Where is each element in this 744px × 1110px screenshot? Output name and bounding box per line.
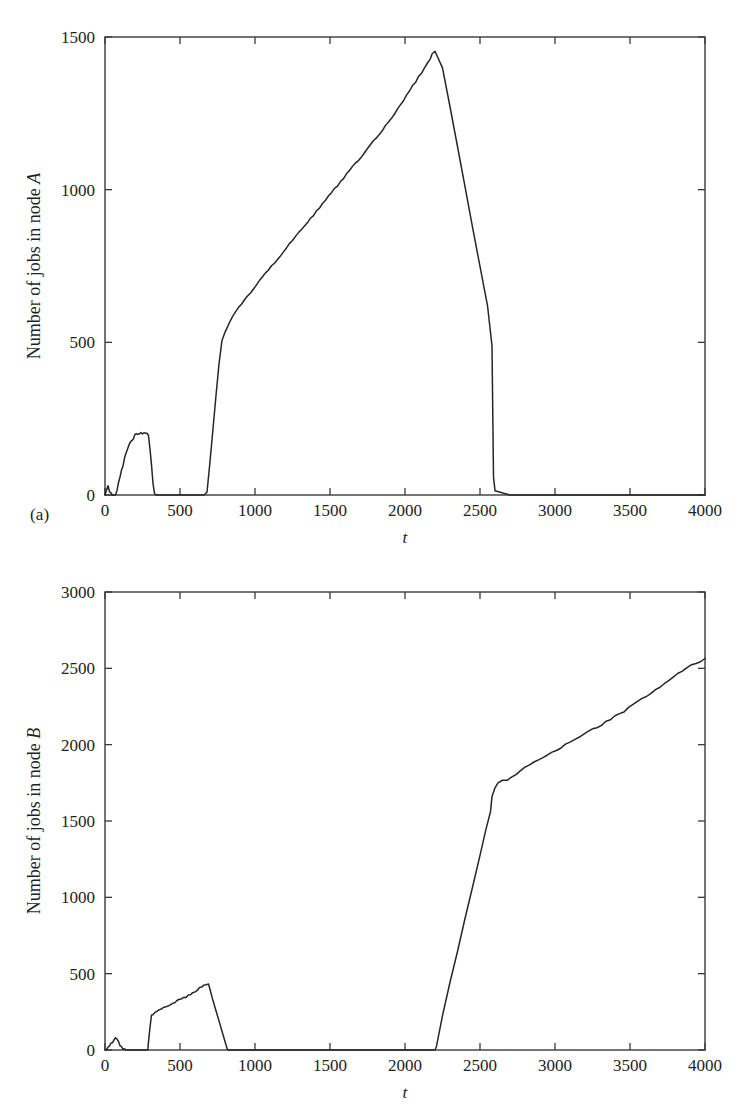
data-series-line xyxy=(105,659,705,1051)
y-tick-label: 1500 xyxy=(61,812,95,831)
x-tick-label: 3000 xyxy=(538,501,572,520)
y-tick-label: 1000 xyxy=(61,181,95,200)
x-tick-label: 500 xyxy=(167,501,193,520)
x-tick-label: 2000 xyxy=(388,1056,422,1075)
chart-a-svg: 0500100015002000250030003500400005001000… xyxy=(0,0,744,555)
plot-frame xyxy=(105,37,705,495)
chart-panel-a: 0500100015002000250030003500400005001000… xyxy=(0,0,744,555)
y-tick-label: 0 xyxy=(87,486,96,505)
x-axis-title: t xyxy=(403,1082,409,1102)
x-tick-label: 1000 xyxy=(238,1056,272,1075)
figure-container: 0500100015002000250030003500400005001000… xyxy=(0,0,744,1110)
x-tick-label: 500 xyxy=(167,1056,193,1075)
x-tick-label: 2500 xyxy=(463,1056,497,1075)
x-tick-label: 0 xyxy=(101,1056,110,1075)
x-tick-label: 0 xyxy=(101,501,110,520)
y-tick-label: 1000 xyxy=(61,888,95,907)
y-axis-title: Number of jobs in node A xyxy=(24,172,44,359)
x-tick-label: 3500 xyxy=(613,501,647,520)
x-tick-label: 1500 xyxy=(313,501,347,520)
y-axis-title: Number of jobs in node B xyxy=(24,728,44,914)
x-axis-title: t xyxy=(403,527,409,547)
x-tick-label: 1500 xyxy=(313,1056,347,1075)
x-tick-label: 1000 xyxy=(238,501,272,520)
chart-panel-b: 0500100015002000250030003500400005001000… xyxy=(0,555,744,1110)
x-tick-label: 4000 xyxy=(688,1056,722,1075)
x-tick-label: 3000 xyxy=(538,1056,572,1075)
data-series-line xyxy=(105,51,705,495)
panel-caption-a: (a) xyxy=(30,505,49,525)
x-tick-label: 4000 xyxy=(688,501,722,520)
x-tick-label: 2500 xyxy=(463,501,497,520)
chart-b-svg: 0500100015002000250030003500400005001000… xyxy=(0,555,744,1110)
y-tick-label: 2500 xyxy=(61,659,95,678)
y-tick-label: 3000 xyxy=(61,583,95,602)
x-tick-label: 2000 xyxy=(388,501,422,520)
y-tick-label: 2000 xyxy=(61,736,95,755)
y-tick-label: 500 xyxy=(70,333,96,352)
x-tick-label: 3500 xyxy=(613,1056,647,1075)
y-tick-label: 500 xyxy=(70,965,96,984)
y-tick-label: 0 xyxy=(87,1041,96,1060)
plot-frame xyxy=(105,592,705,1050)
y-tick-label: 1500 xyxy=(61,28,95,47)
